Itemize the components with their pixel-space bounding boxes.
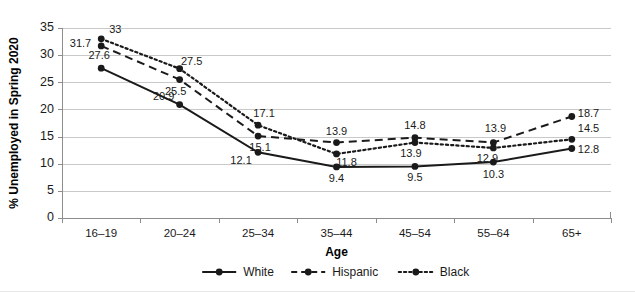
- data-label-white: 10.3: [483, 168, 504, 180]
- data-label-hispanic: 13.9: [326, 125, 347, 137]
- legend-marker-hispanic: [305, 269, 312, 276]
- data-point-black: [255, 122, 262, 129]
- data-point-white: [412, 163, 419, 170]
- x-axis-tick-labels: 16–1920–2425–3435–4445–5455–6465+: [85, 227, 582, 239]
- y-tick-label: 15: [40, 129, 54, 143]
- data-point-hispanic: [568, 113, 575, 120]
- data-point-white: [98, 65, 105, 72]
- legend-label-hispanic: Hispanic: [332, 265, 378, 279]
- data-label-hispanic: 13.9: [485, 122, 506, 134]
- x-tick-label: 55–64: [477, 227, 510, 239]
- x-tick-label: 65+: [562, 227, 582, 239]
- data-point-white: [176, 101, 183, 108]
- data-label-white: 12.8: [578, 143, 599, 155]
- x-axis-title: Age: [325, 245, 348, 259]
- data-point-hispanic: [176, 76, 183, 83]
- data-label-white: 9.5: [407, 171, 422, 183]
- data-label-hispanic: 31.7: [70, 37, 91, 49]
- legend-label-black: Black: [440, 265, 470, 279]
- x-tick-label: 45–54: [399, 227, 432, 239]
- y-tick-label: 5: [47, 183, 54, 197]
- data-label-hispanic: 18.7: [578, 107, 599, 119]
- data-label-white: 27.6: [88, 49, 109, 61]
- data-point-white: [568, 145, 575, 152]
- y-axis-tick-labels: 05101520253035: [40, 20, 54, 224]
- x-tick-label: 35–44: [321, 227, 354, 239]
- y-tick-label: 20: [40, 102, 54, 116]
- unemployment-by-age-line-chart: 05101520253035 16–1920–2425–3435–4445–54…: [0, 0, 635, 293]
- data-point-black: [568, 136, 575, 143]
- data-label-black: 11.8: [336, 156, 357, 168]
- x-tick-label: 16–19: [85, 227, 117, 239]
- data-label-hispanic: 14.8: [404, 119, 425, 131]
- data-label-black: 13.9: [400, 147, 421, 159]
- legend-marker-black: [412, 269, 419, 276]
- data-label-black: 17.1: [253, 107, 274, 119]
- legend-label-white: White: [243, 265, 274, 279]
- chart-legend: WhiteHispanicBlack: [202, 265, 470, 279]
- data-label-black: 12.9: [477, 152, 498, 164]
- data-label-black: 14.5: [578, 122, 599, 134]
- chart-container: 05101520253035 16–1920–2425–3435–4445–54…: [0, 0, 635, 293]
- data-label-white: 12.1: [230, 154, 251, 166]
- data-point-labels: 27.620.912.19.49.510.312.831.725.515.113…: [70, 23, 599, 184]
- data-point-black: [98, 35, 105, 42]
- data-label-black: 33: [109, 23, 121, 35]
- data-point-hispanic: [255, 133, 262, 140]
- data-point-black: [412, 139, 419, 146]
- y-tick-label: 25: [40, 75, 54, 89]
- data-label-black: 27.5: [181, 55, 202, 67]
- legend-marker-white: [216, 269, 223, 276]
- data-label-white: 9.4: [329, 172, 344, 184]
- data-label-hispanic: 15.1: [249, 141, 270, 153]
- data-label-hispanic: 25.5: [165, 85, 186, 97]
- data-point-black: [490, 145, 497, 152]
- x-tick-label: 20–24: [164, 227, 197, 239]
- y-tick-label: 0: [47, 210, 54, 224]
- data-point-hispanic: [333, 139, 340, 146]
- y-tick-label: 30: [40, 47, 54, 61]
- x-tick-label: 25–34: [242, 227, 275, 239]
- y-axis-title: % Unemployed in Spring 2020: [7, 37, 21, 209]
- y-tick-label: 10: [40, 156, 54, 170]
- y-tick-label: 35: [40, 20, 54, 34]
